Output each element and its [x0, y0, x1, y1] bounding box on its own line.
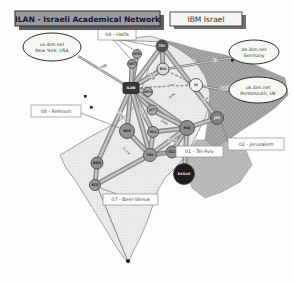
bandwidth-label: 2M [168, 83, 174, 88]
site-label-text: 02 - Jerusalem [239, 142, 274, 147]
node-hub: ILAN [123, 83, 139, 94]
node-label-mll: MLL [149, 130, 158, 134]
site-label-text: 08 - Rehovot [41, 109, 72, 114]
city-dot [231, 59, 234, 62]
callout-line2: Portsmouth, UK [240, 91, 277, 96]
callout-line1: de.ibm.net [242, 47, 267, 52]
node-label-bgu: BGU [93, 161, 101, 165]
node-label-sce: SCE [91, 183, 99, 187]
city-dot [84, 95, 87, 98]
map-svg: TECHFAORTBIUILANOPUIXJCTWISMLLHUJJERTAUI… [0, 0, 294, 283]
node-label-ix: IX [194, 83, 198, 87]
node-mll: MLL [148, 127, 159, 138]
callout-line1: us.ibm.net [40, 42, 65, 47]
node-label-huj: HUJ [184, 126, 191, 130]
node-hfa: HFA [133, 50, 142, 59]
node-opu: OPU [144, 88, 153, 97]
city-dot [90, 106, 93, 109]
right-title-text: IBM Israel [187, 15, 224, 24]
site-label-haifa: 04 - Haifa [98, 29, 158, 62]
node-huj: HUJ [180, 121, 195, 136]
node-tau: TAU [144, 149, 157, 162]
site-label-rehovot: 08 - Rehovot [31, 105, 122, 129]
scanned-network-map: TECHFAORTBIUILANOPUIXJCTWISMLLHUJJERTAUI… [0, 0, 294, 283]
south-tip-dot [126, 259, 130, 263]
left-title-text: ILAN - Israeli Academical Network [15, 15, 161, 24]
node-label-jer: JER [213, 116, 221, 120]
callout-line2: New York, USA [35, 48, 69, 53]
node-ix: IX [190, 79, 203, 92]
node-label-hub: ILAN [127, 86, 136, 90]
site-label-text: 07 - Beer-Sheva [111, 197, 149, 202]
node-label-barak: BARAK [177, 172, 190, 176]
us-ibm-net-link-highlight [78, 56, 127, 86]
node-wis: WIS [120, 124, 135, 139]
leader-line [118, 40, 137, 52]
node-barak: BARAK [174, 164, 195, 185]
callout-uk-ibm-net: uk.ibm.netPortsmouth, UK [229, 77, 287, 103]
node-tec: TEC [156, 40, 168, 52]
callout-de-ibm-net: de.ibm.netGermany [229, 40, 279, 64]
callout-line1: uk.ibm.net [246, 85, 271, 90]
callout-us-ibm-net: us.ibm.netNew York, USA [23, 33, 81, 61]
node-bgu: BGU [91, 157, 103, 169]
right-title-banner: IBM Israel [170, 12, 246, 29]
site-label-text: 01 - Tel-Aviv [185, 149, 214, 154]
node-label-biu: BIU [160, 67, 167, 71]
node-label-jct: JCT [148, 108, 156, 112]
node-label-wis: WIS [123, 129, 131, 133]
node-sce: SCE [90, 180, 101, 191]
bandwidth-label: 2MB [98, 62, 108, 70]
left-title-banner: ILAN - Israeli Academical Network [15, 11, 164, 30]
node-label-hfa: HFA [133, 52, 141, 56]
node-jct: JCT [147, 105, 157, 115]
node-label-opu: OPU [144, 90, 152, 94]
node-label-tau: TAU [146, 153, 154, 157]
site-label-text: 04 - Haifa [105, 32, 128, 37]
node-biu: BIU [157, 63, 169, 75]
node-label-tec: TEC [158, 44, 166, 48]
callout-line2: Germany [243, 53, 264, 58]
node-label-ort: ORT [128, 62, 136, 66]
